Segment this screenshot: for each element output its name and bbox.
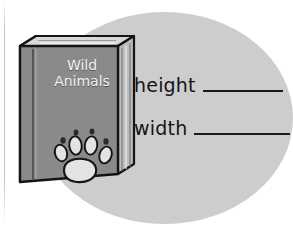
wild-animals-book: Wild Animals [16,32,142,184]
measurement-row-width: width [134,117,290,139]
page-scan-edge [4,0,5,232]
book-spine-side [118,36,134,174]
measurement-row-height: height [134,74,283,96]
width-answer-blank[interactable] [194,121,290,135]
book-top-edge [20,36,134,46]
worksheet-canvas: Wild Animals height width [0,0,293,232]
height-answer-blank[interactable] [203,78,283,92]
width-label: width [134,117,187,139]
height-label: height [134,74,196,96]
